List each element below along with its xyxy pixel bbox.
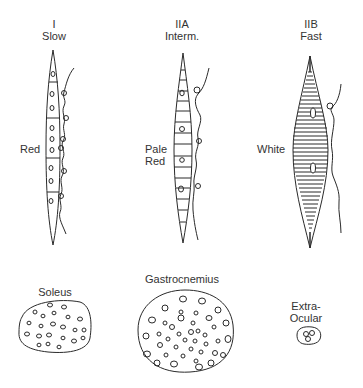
fiber-iia-shape (174, 53, 192, 243)
fiber-i-shape (46, 50, 60, 245)
extraocular-cross-section (297, 327, 321, 345)
fiber-iib-shape (293, 56, 328, 248)
gastrocnemius-cross-section (138, 290, 233, 372)
fiber-diagram-art (0, 0, 363, 388)
soleus-cross-section (19, 301, 91, 353)
fiber-iia-capillary (193, 68, 209, 240)
